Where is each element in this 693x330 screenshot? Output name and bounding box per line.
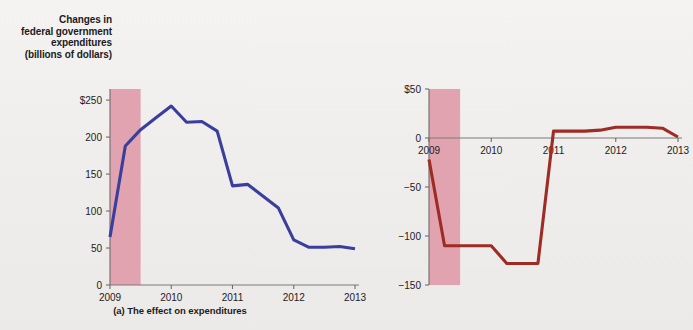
y-tick-label: $50 [404, 84, 421, 95]
y-tick-label: 0 [415, 133, 421, 144]
y-tick-label: 150 [85, 169, 102, 180]
data-series-line [110, 106, 355, 249]
x-tick-label: 2010 [160, 292, 183, 303]
chart-panel-expenditures: Changes in federal government expenditur… [0, 0, 360, 330]
x-tick-label: 2011 [543, 145, 565, 156]
x-tick-label: 2013 [667, 145, 690, 156]
x-tick-label: 2012 [605, 145, 628, 156]
y-tick-label: 100 [85, 206, 102, 217]
x-tick-label: 2009 [418, 145, 441, 156]
y-tick-label: −50 [404, 182, 421, 193]
expenditures-plot: 050100150200$25020092010201120122013 [0, 0, 360, 300]
x-tick-label: 2009 [99, 292, 122, 303]
y-tick-label: −100 [398, 231, 421, 242]
y-tick-label: 200 [85, 132, 102, 143]
y-tick-label: $250 [80, 95, 103, 106]
y-tick-label: −150 [398, 280, 421, 291]
x-tick-label: 2010 [480, 145, 503, 156]
chart-panel-revenue: Changes in federal government revenue (b… [347, 0, 693, 330]
revenue-plot: −150−100−500$5020092010201120122013 [347, 0, 693, 300]
y-tick-label: 50 [91, 243, 103, 254]
figure-container: Changes in federal government expenditur… [0, 0, 693, 330]
y-tick-label: 0 [96, 280, 102, 291]
caption-expenditures: (a) The effect on expenditures [60, 305, 300, 316]
x-tick-label: 2012 [283, 292, 306, 303]
x-tick-label: 2011 [222, 292, 244, 303]
